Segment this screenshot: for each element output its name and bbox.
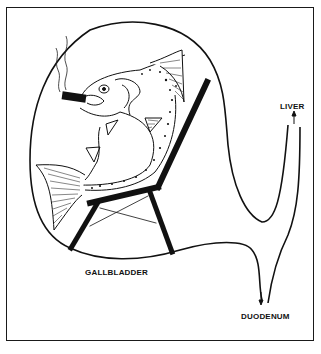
smoke-icon: [56, 36, 67, 92]
liver-arrow-icon: [292, 111, 296, 124]
gallbladder-label: GALLBLADDER: [85, 268, 148, 277]
diagram-canvas: LIVER GALLBLADDER DUODENUM: [0, 0, 321, 354]
lounge-chair-icon: [71, 82, 207, 252]
duodenum-label: DUODENUM: [241, 312, 290, 321]
illustration: [0, 0, 321, 354]
fish-icon: [36, 50, 185, 230]
liver-label: LIVER: [280, 102, 305, 111]
